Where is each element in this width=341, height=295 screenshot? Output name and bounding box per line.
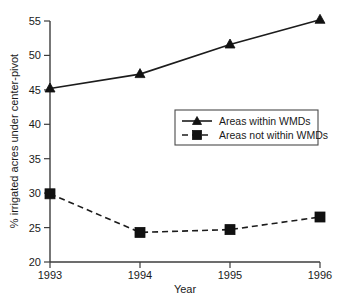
square-marker-icon bbox=[193, 131, 202, 140]
data-point-1993-not-within bbox=[45, 189, 55, 199]
y-tick-label-45: 45 bbox=[29, 84, 41, 96]
y-tick-label-30: 30 bbox=[29, 187, 41, 199]
x-tick-label-1996: 1996 bbox=[308, 269, 332, 281]
y-tick-label-35: 35 bbox=[29, 153, 41, 165]
chart-background bbox=[0, 0, 341, 295]
y-tick-label-50: 50 bbox=[29, 49, 41, 61]
chart-container: 55 50 45 40 35 30 25 20 % irrigated acre… bbox=[0, 0, 341, 295]
data-point-1995-not-within bbox=[225, 225, 235, 235]
x-tick-label-1995: 1995 bbox=[218, 269, 242, 281]
y-tick-label-40: 40 bbox=[29, 118, 41, 130]
x-tick-label-1994: 1994 bbox=[128, 269, 152, 281]
y-tick-label-55: 55 bbox=[29, 15, 41, 27]
y-tick-label-20: 20 bbox=[29, 256, 41, 268]
y-tick-label-25: 25 bbox=[29, 222, 41, 234]
line-chart: 55 50 45 40 35 30 25 20 % irrigated acre… bbox=[0, 0, 341, 295]
legend-label-areas-not-within-wmds: Areas not within WMDs bbox=[219, 129, 328, 141]
legend-label-areas-within-wmds: Areas within WMDs bbox=[219, 115, 311, 127]
y-axis-title: % irrigated acres under center-pivot bbox=[8, 54, 20, 228]
x-tick-label-1993: 1993 bbox=[38, 269, 62, 281]
data-point-1996-not-within bbox=[315, 212, 325, 222]
chart-legend: Areas within WMDs Areas not within WMDs bbox=[175, 110, 328, 145]
x-axis-title: Year bbox=[174, 283, 197, 295]
data-point-1994-not-within bbox=[135, 227, 145, 237]
